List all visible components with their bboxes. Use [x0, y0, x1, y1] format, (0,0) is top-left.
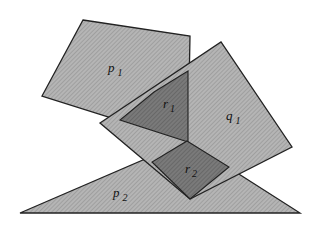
polygon-diagram: p1 q1 p2 r1 r2 [0, 0, 317, 230]
